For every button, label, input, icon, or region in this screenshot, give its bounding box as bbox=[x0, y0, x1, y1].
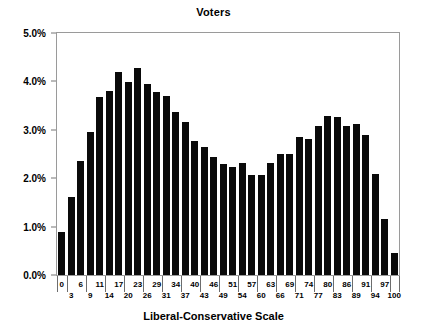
x-axis-tick-label: 46 bbox=[209, 280, 218, 289]
bar bbox=[144, 84, 151, 275]
x-axis-tick-label: 37 bbox=[181, 291, 190, 300]
x-axis-tick-label: 91 bbox=[361, 280, 370, 289]
bar bbox=[267, 163, 274, 275]
x-axis-tick-mark bbox=[181, 276, 182, 292]
bar bbox=[68, 197, 75, 275]
bar bbox=[125, 82, 132, 275]
x-axis-tick-mark bbox=[67, 276, 68, 292]
bar bbox=[229, 167, 236, 275]
x-axis-tick-label: 94 bbox=[371, 291, 380, 300]
x-axis-tick-label: 26 bbox=[143, 291, 152, 300]
bar bbox=[381, 219, 388, 275]
x-axis-tick-label: 63 bbox=[266, 280, 275, 289]
x-axis-tick-label: 29 bbox=[152, 280, 161, 289]
y-axis-tick-label: 5.0% bbox=[23, 28, 46, 39]
bar bbox=[286, 154, 293, 275]
x-axis-tick-mark bbox=[57, 276, 58, 292]
bar bbox=[96, 97, 103, 275]
x-axis-tick-label: 9 bbox=[88, 291, 92, 300]
x-axis-tick-label: 97 bbox=[380, 280, 389, 289]
x-axis-tick-label: 3 bbox=[69, 291, 73, 300]
x-axis-tick-label: 20 bbox=[124, 291, 133, 300]
bar bbox=[239, 163, 246, 275]
bar bbox=[201, 147, 208, 275]
x-axis-tick-mark bbox=[257, 276, 258, 292]
x-axis-tick-label: 51 bbox=[228, 280, 237, 289]
bar bbox=[334, 117, 341, 275]
x-axis-tick-label: 14 bbox=[105, 291, 114, 300]
x-axis-tick-label: 83 bbox=[333, 291, 342, 300]
bar bbox=[153, 92, 160, 275]
bar bbox=[277, 154, 284, 275]
bar bbox=[58, 232, 65, 275]
x-axis-tick-mark bbox=[105, 276, 106, 292]
x-axis-tick-label: 43 bbox=[200, 291, 209, 300]
x-axis-tick-label: 23 bbox=[133, 280, 142, 289]
x-axis-tick-label: 34 bbox=[171, 280, 180, 289]
x-axis-tick-label: 11 bbox=[96, 280, 104, 289]
x-axis-tick-label: 31 bbox=[162, 291, 171, 300]
bar bbox=[372, 174, 379, 275]
x-axis-tick-mark bbox=[276, 276, 277, 292]
x-axis-tick-label: 77 bbox=[314, 291, 323, 300]
x-axis-tick-mark bbox=[390, 276, 391, 292]
bar bbox=[182, 122, 189, 275]
x-axis-tick-mark bbox=[219, 276, 220, 292]
bars-layer bbox=[57, 33, 399, 275]
x-axis: 0369111417202326293134374043464951545760… bbox=[57, 276, 399, 310]
y-axis-tick-label: 2.0% bbox=[23, 173, 46, 184]
x-axis-tick-mark bbox=[124, 276, 125, 292]
bar bbox=[191, 141, 198, 275]
x-axis-tick-mark bbox=[333, 276, 334, 292]
x-axis-tick-mark bbox=[352, 276, 353, 292]
y-axis-tick-label: 3.0% bbox=[23, 124, 46, 135]
x-axis-tick-mark bbox=[162, 276, 163, 292]
bar bbox=[305, 139, 312, 275]
x-axis-tick-label: 40 bbox=[190, 280, 199, 289]
x-axis-tick-label: 60 bbox=[257, 291, 266, 300]
x-axis-tick-label: 54 bbox=[238, 291, 247, 300]
y-axis-tick-label: 0.0% bbox=[23, 270, 46, 281]
bar bbox=[353, 124, 360, 275]
bar bbox=[258, 175, 265, 275]
bar bbox=[220, 164, 227, 275]
chart-title: Voters bbox=[0, 6, 427, 18]
bar bbox=[315, 126, 322, 275]
x-axis-title: Liberal-Conservative Scale bbox=[0, 310, 427, 322]
chart-container: Voters 0.0%1.0%2.0%3.0%4.0%5.0% 03691114… bbox=[0, 0, 427, 336]
bar bbox=[343, 126, 350, 275]
bar bbox=[115, 72, 122, 275]
x-axis-tick-mark bbox=[399, 276, 400, 292]
bar bbox=[248, 175, 255, 275]
bar bbox=[106, 91, 113, 275]
x-axis-tick-label: 86 bbox=[342, 280, 351, 289]
x-axis-tick-label: 66 bbox=[276, 291, 285, 300]
bar bbox=[210, 157, 217, 275]
bar bbox=[172, 112, 179, 275]
x-axis-tick-label: 17 bbox=[114, 280, 123, 289]
x-axis-tick-label: 6 bbox=[79, 280, 83, 289]
bar bbox=[296, 137, 303, 275]
bar bbox=[362, 135, 369, 275]
x-axis-tick-mark bbox=[143, 276, 144, 292]
x-axis-tick-mark bbox=[200, 276, 201, 292]
bar bbox=[324, 116, 331, 275]
x-axis-tick-label: 71 bbox=[295, 291, 304, 300]
x-axis-tick-label: 89 bbox=[352, 291, 361, 300]
y-axis-tick-label: 4.0% bbox=[23, 76, 46, 87]
bar bbox=[77, 161, 84, 275]
y-axis-tick-label: 1.0% bbox=[23, 221, 46, 232]
bar bbox=[163, 96, 170, 275]
x-axis-tick-mark bbox=[371, 276, 372, 292]
x-axis-tick-mark bbox=[314, 276, 315, 292]
x-axis-tick-label: 0 bbox=[60, 280, 64, 289]
x-axis-tick-label: 74 bbox=[304, 280, 313, 289]
bar bbox=[391, 253, 398, 275]
x-axis-tick-label: 69 bbox=[285, 280, 294, 289]
x-axis-tick-label: 57 bbox=[247, 280, 256, 289]
bar bbox=[134, 68, 141, 275]
x-axis-tick-label: 100 bbox=[388, 291, 401, 300]
bar bbox=[87, 132, 94, 275]
x-axis-tick-mark bbox=[86, 276, 87, 292]
x-axis-tick-label: 80 bbox=[323, 280, 332, 289]
